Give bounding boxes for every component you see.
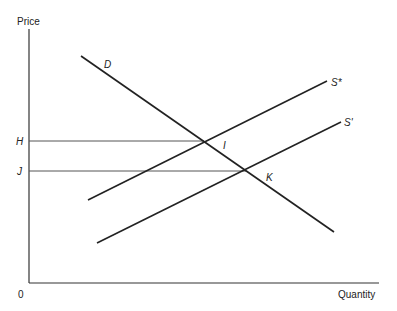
supply-demand-diagram: Price Quantity 0 H J D S* S' I K bbox=[0, 0, 397, 311]
x-axis-label: Quantity bbox=[338, 289, 375, 300]
price-label-j: J bbox=[16, 166, 23, 177]
point-label-i: I bbox=[223, 140, 226, 151]
origin-label: 0 bbox=[18, 289, 24, 300]
supply-curve-s-prime-label: S' bbox=[344, 117, 354, 128]
price-label-h: H bbox=[16, 136, 24, 147]
y-axis-label: Price bbox=[17, 16, 40, 27]
point-label-k: K bbox=[266, 172, 274, 183]
supply-curve-s-star-label: S* bbox=[331, 77, 343, 88]
demand-curve-label: D bbox=[104, 59, 111, 70]
supply-curve-s-prime bbox=[97, 122, 341, 243]
